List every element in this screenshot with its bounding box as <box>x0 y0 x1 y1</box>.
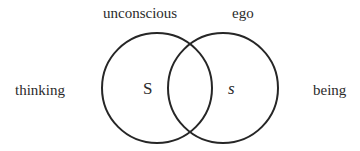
set-letter-S: S <box>143 80 152 97</box>
right-circle <box>168 33 278 143</box>
label-unconscious: unconscious <box>103 6 177 21</box>
left-circle <box>102 33 212 143</box>
venn-diagram: unconscious ego thinking being S s <box>0 0 360 151</box>
label-being: being <box>313 83 346 98</box>
label-ego: ego <box>232 6 254 21</box>
venn-circles <box>0 0 360 151</box>
set-letter-s: s <box>228 80 235 97</box>
label-thinking: thinking <box>15 83 65 98</box>
